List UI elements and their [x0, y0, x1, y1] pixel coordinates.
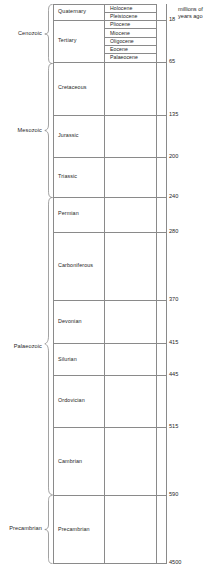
period-divider-jurassic-triassic	[53, 157, 156, 158]
axis-tick-label-4500: 4500	[169, 560, 181, 566]
period-label-precambrian: Precambrian	[58, 527, 90, 532]
axis-tick-label-590: 590	[169, 492, 178, 498]
axis-tick-label-280: 280	[169, 229, 178, 235]
period-divider-quaternary-tertiary	[53, 20, 156, 21]
era-label-precambrian: Precambrian	[0, 526, 42, 532]
period-label-triassic: Triassic	[58, 174, 77, 179]
brace-palaeozoic	[44, 197, 53, 495]
epoch-label-pleistocene: Pleistocene	[110, 14, 137, 19]
brace-mesozoic	[44, 63, 53, 198]
axis-tick-label-415: 415	[169, 340, 178, 346]
geological-time-scale-chart: Cenozoic Mesozoic Palaeozoic Precambrian…	[0, 0, 221, 574]
period-divider-ordovician-cambrian	[53, 427, 156, 428]
table-bottom-border	[53, 563, 156, 564]
axis-tick-label-135: 135	[169, 112, 178, 118]
period-label-permian: Permian	[58, 211, 79, 216]
era-label-mesozoic: Mesozoic	[2, 128, 42, 134]
axis-unit-line-1: millions of	[178, 6, 221, 13]
table-left-border	[53, 4, 54, 564]
table-top-border	[53, 4, 156, 5]
period-label-carboniferous: Carboniferous	[58, 263, 93, 268]
period-divider-carboniferous-devonian	[53, 300, 156, 301]
period-label-jurassic: Jurassic	[58, 133, 79, 138]
axis-tick-label-18: 18	[169, 17, 175, 23]
period-divider-devonian-silurian	[53, 343, 156, 344]
epoch-divider-pliocene-miocene	[104, 28, 156, 29]
period-divider-cretaceous-jurassic	[53, 115, 156, 116]
axis-unit-caption: millions of years ago	[178, 6, 221, 20]
axis-tick-18	[156, 20, 166, 21]
axis-tick-label-370: 370	[169, 297, 178, 303]
axis-tick-65	[156, 62, 166, 63]
axis-tick-200	[156, 157, 166, 158]
axis-tick-590	[156, 495, 166, 496]
axis-unit-line-2: years ago	[178, 13, 221, 20]
epoch-label-oligocene: Oligocene	[110, 39, 134, 44]
axis-tick-370	[156, 300, 166, 301]
axis-tick-445	[156, 375, 166, 376]
period-divider-silurian-ordovician	[53, 375, 156, 376]
axis-tick-415	[156, 343, 166, 344]
table-right-border	[156, 4, 157, 564]
axis-tick-515	[156, 427, 166, 428]
table-column-divider	[104, 4, 105, 564]
period-label-devonian: Devonian	[58, 319, 82, 324]
axis-tick-label-65: 65	[169, 59, 175, 65]
period-label-ordovician: Ordovician	[58, 398, 85, 403]
axis-tick-135	[156, 115, 166, 116]
axis-tick-label-200: 200	[169, 154, 178, 160]
epoch-label-holocene: Holocene	[110, 6, 132, 11]
time-axis-line	[166, 4, 167, 564]
axis-tick-4500	[156, 563, 166, 564]
axis-tick-label-240: 240	[169, 194, 178, 200]
era-label-palaeozoic: Palaeozoic	[0, 344, 42, 350]
axis-tick-280	[156, 232, 166, 233]
epoch-label-palaeocene: Palaeocene	[110, 55, 138, 60]
epoch-label-miocene: Miocene	[110, 31, 130, 36]
period-divider-triassic-permian	[53, 197, 156, 198]
epoch-label-eocene: Eocene	[110, 47, 128, 52]
period-divider-permian-carboniferous	[53, 232, 156, 233]
epoch-label-pliocene: Pliocene	[110, 22, 130, 27]
era-label-cenozoic: Cenozoic	[2, 31, 42, 37]
period-label-silurian: Silurian	[58, 357, 77, 362]
period-label-cretaceous: Cretaceous	[58, 85, 87, 90]
axis-tick-label-515: 515	[169, 424, 178, 430]
period-divider-tertiary-cretaceous	[53, 62, 156, 63]
axis-tick-label-445: 445	[169, 372, 178, 378]
period-label-cambrian: Cambrian	[58, 459, 82, 464]
axis-tick-240	[156, 197, 166, 198]
period-label-quaternary: Quaternary	[58, 9, 86, 14]
brace-cenozoic	[44, 4, 53, 64]
period-divider-cambrian-precambrian	[53, 495, 156, 496]
period-label-tertiary: Tertiary	[58, 38, 76, 43]
brace-precambrian	[44, 495, 53, 564]
